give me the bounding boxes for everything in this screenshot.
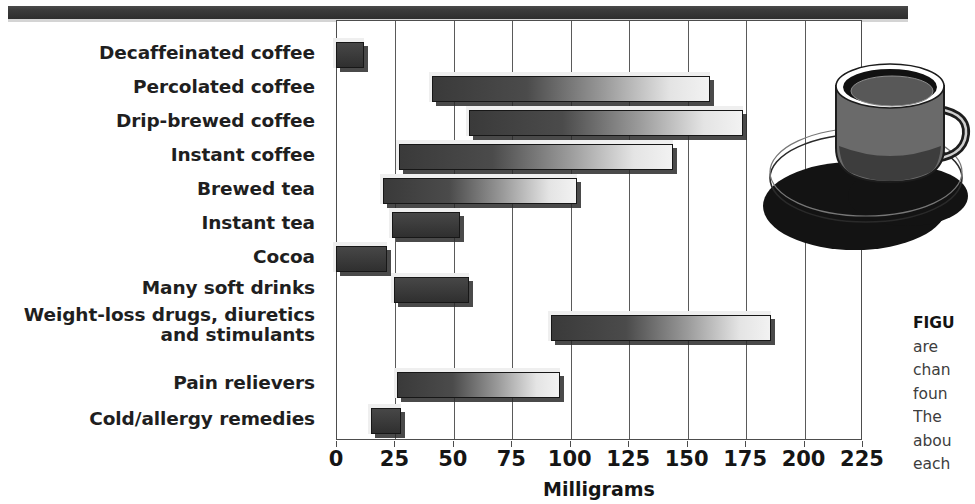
caption-line: abou	[913, 430, 975, 454]
x-axis-tick	[394, 441, 395, 447]
bar-fill	[399, 144, 673, 170]
bar-fill	[432, 76, 710, 102]
x-axis-tick-label: 100	[548, 447, 592, 471]
category-label: Decaffeinated coffee	[99, 43, 315, 63]
bar-fill	[392, 212, 460, 238]
x-axis-tick	[745, 441, 746, 447]
caffeine-range-chart: Decaffeinated coffeePercolated coffeeDri…	[0, 0, 975, 504]
bar	[336, 42, 364, 68]
bar-fill	[336, 42, 364, 68]
bar	[392, 212, 460, 238]
category-label: Weight-loss drugs, diuretics and stimula…	[24, 305, 315, 345]
x-axis-tick	[628, 441, 629, 447]
category-label: Cocoa	[253, 247, 315, 267]
bar-fill	[371, 408, 401, 434]
bar	[336, 246, 387, 272]
x-axis-tick-label: 225	[840, 447, 884, 471]
category-label: Percolated coffee	[133, 77, 315, 97]
x-axis-tick	[570, 441, 571, 447]
bars-layer	[336, 20, 862, 440]
x-axis-tick	[804, 441, 805, 447]
category-axis-labels: Decaffeinated coffeePercolated coffeeDri…	[0, 20, 326, 440]
x-axis-tick	[862, 441, 863, 447]
category-label: Many soft drinks	[142, 278, 315, 298]
bar-fill	[336, 246, 387, 272]
caption-line: are	[913, 336, 975, 360]
bar	[397, 372, 561, 398]
x-axis-tick	[453, 441, 454, 447]
x-axis-title: Milligrams	[336, 478, 862, 500]
caption-lead: FIGU	[913, 312, 975, 336]
x-axis-tick	[336, 441, 337, 447]
bar	[551, 315, 771, 341]
x-axis-tick-label: 125	[606, 447, 650, 471]
x-axis-tick-label: 75	[497, 447, 526, 471]
bar-fill	[397, 372, 561, 398]
bar-fill	[394, 277, 469, 303]
bar-fill	[469, 110, 743, 136]
bar-fill	[551, 315, 771, 341]
x-axis-tick-label: 50	[438, 447, 467, 471]
bar-fill	[383, 178, 577, 204]
x-axis-tick-label: 0	[329, 447, 344, 471]
x-axis-tick	[511, 441, 512, 447]
category-label: Drip-brewed coffee	[116, 111, 315, 131]
caption-line: The	[913, 406, 975, 430]
bar	[399, 144, 673, 170]
category-label: Instant coffee	[171, 145, 315, 165]
caption-line: each	[913, 453, 975, 477]
x-axis-tick	[687, 441, 688, 447]
x-axis-tick-label: 175	[723, 447, 767, 471]
bar	[432, 76, 710, 102]
category-label: Cold/allergy remedies	[89, 409, 315, 429]
x-axis-tick-label: 150	[665, 447, 709, 471]
x-axis-tick-labels: 0255075100125150175200225	[336, 447, 862, 477]
caption-line: foun	[913, 383, 975, 407]
x-axis-tick-label: 25	[380, 447, 409, 471]
bar	[371, 408, 401, 434]
bar	[394, 277, 469, 303]
category-label: Brewed tea	[197, 179, 315, 199]
figure-caption: FIGU are chan foun The abou each	[913, 312, 975, 502]
caption-line: chan	[913, 359, 975, 383]
x-axis-tick-label: 200	[782, 447, 826, 471]
category-label: Pain relievers	[173, 373, 315, 393]
bar	[469, 110, 743, 136]
category-label: Instant tea	[201, 213, 315, 233]
bar	[383, 178, 577, 204]
